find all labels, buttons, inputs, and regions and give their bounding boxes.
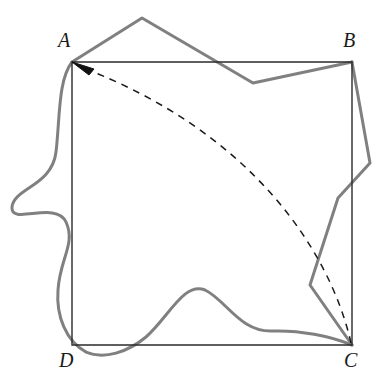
dashed-arc-c-to-a [78, 66, 351, 343]
arrowhead-icon [72, 62, 94, 75]
vertex-label-c: C [344, 350, 357, 370]
geometry-figure: A B C D [0, 0, 382, 383]
curve-top-polyline [72, 18, 352, 83]
curve-left-smooth [12, 62, 86, 352]
dashed-arc-group [72, 62, 351, 343]
square-abcd [72, 62, 352, 345]
vertex-label-a: A [58, 30, 70, 50]
closed-curve-group [12, 18, 370, 355]
vertex-label-d: D [59, 350, 73, 370]
vertex-label-b: B [343, 30, 355, 50]
figure-canvas [0, 0, 382, 383]
curve-right-polyline [310, 62, 370, 345]
